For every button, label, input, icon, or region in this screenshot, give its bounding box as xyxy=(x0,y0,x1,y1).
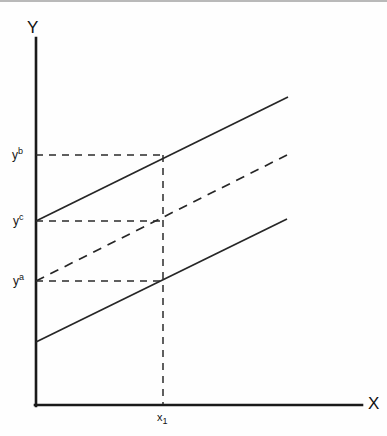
plot-area xyxy=(0,0,387,436)
y-axis-tick-ya: ya xyxy=(13,274,24,288)
middle-dashed-line xyxy=(36,155,287,281)
lower-solid-line xyxy=(36,219,287,342)
figure-container: Y X yb yc ya x1 xyxy=(0,0,387,436)
y-axis-tick-yc-script: c xyxy=(19,212,24,222)
y-axis-tick-yb: yb xyxy=(12,148,23,162)
x-axis-label: X xyxy=(368,394,380,414)
x-axis-tick-x1-script: 1 xyxy=(163,416,168,426)
upper-solid-line xyxy=(36,97,288,221)
y-axis-tick-yb-script: b xyxy=(18,146,23,156)
y-axis-label: Y xyxy=(27,18,39,38)
y-axis-tick-ya-script: a xyxy=(19,272,24,282)
x-axis-tick-x1: x1 xyxy=(157,411,168,423)
y-axis-tick-yc: yc xyxy=(13,214,24,228)
